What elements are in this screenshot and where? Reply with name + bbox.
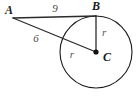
geometry-figure: A B C 9 6 r r xyxy=(0,0,138,96)
secant-segment-ac xyxy=(13,18,96,52)
length-label-ac: 6 xyxy=(33,32,39,44)
length-label-ab: 9 xyxy=(52,2,58,14)
radius-label-diagonal: r xyxy=(70,48,75,60)
radius-label-vertical: r xyxy=(102,26,107,38)
vertex-label-a: A xyxy=(4,3,13,17)
vertex-label-c: C xyxy=(103,50,112,64)
geometry-diagram-svg: A B C 9 6 r r xyxy=(0,0,138,96)
center-point-dot xyxy=(93,49,98,54)
vertex-label-b: B xyxy=(91,0,100,13)
